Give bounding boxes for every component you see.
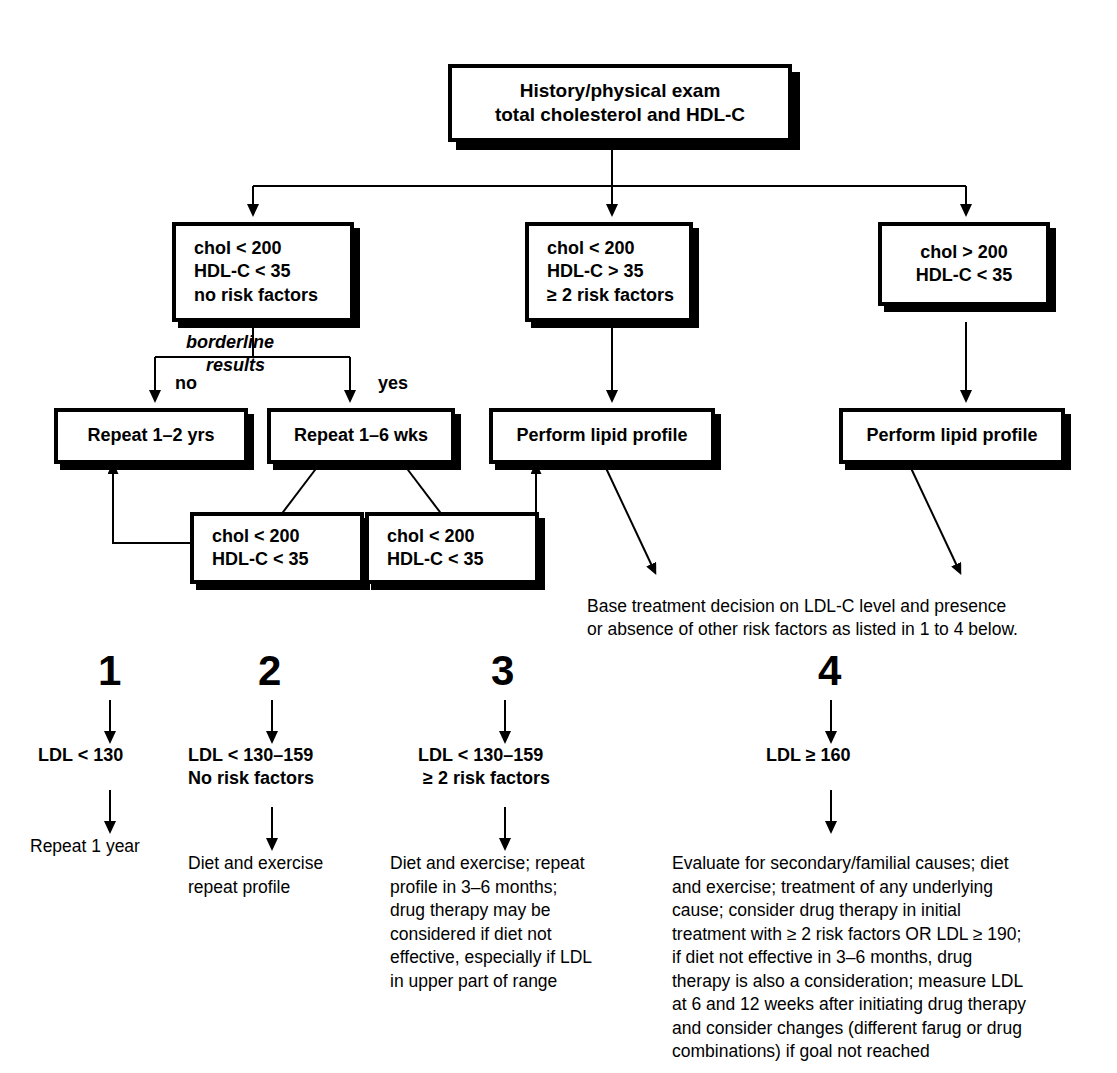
node-line: HDL-C < 35 [212, 548, 309, 571]
node-line: History/physical exam [520, 79, 721, 103]
outcome-action-2: Diet and exercise repeat profile [188, 852, 378, 899]
node-line: chol < 200 [194, 237, 282, 260]
edge-label-no: no [175, 372, 197, 395]
outcome-criteria-2b: No risk factors [188, 767, 314, 790]
node-repeat-1-6-weeks: Repeat 1–6 wks [267, 408, 455, 464]
node-line: chol < 200 [387, 525, 475, 548]
treatment-note-line1: Base treatment decision on LDL-C level a… [587, 595, 1006, 618]
node-line: ≥ 2 risk factors [547, 284, 674, 307]
node-line: HDL-C < 35 [194, 260, 291, 283]
node-line: Perform lipid profile [516, 424, 687, 447]
node-line: Perform lipid profile [866, 424, 1037, 447]
node-line: chol < 200 [547, 237, 635, 260]
node-branch-right: chol > 200 HDL-C < 35 [878, 222, 1050, 306]
node-recheck-left: chol < 200 HDL-C < 35 [190, 512, 364, 584]
node-branch-middle: chol < 200 HDL-C > 35 ≥ 2 risk factors [525, 222, 693, 322]
node-line: Repeat 1–2 yrs [87, 424, 214, 447]
edge-label-yes: yes [378, 372, 408, 395]
outcome-number-1: 1 [98, 650, 121, 692]
node-line: chol > 200 [920, 241, 1008, 264]
node-line: no risk factors [194, 284, 318, 307]
outcome-action-4: Evaluate for secondary/familial causes; … [672, 852, 1102, 1064]
outcome-criteria-1: LDL < 130 [38, 744, 123, 767]
node-line: Repeat 1–6 wks [294, 424, 428, 447]
node-line: HDL-C < 35 [387, 548, 484, 571]
node-perform-lipid-profile-right: Perform lipid profile [839, 408, 1065, 464]
outcome-number-2: 2 [258, 650, 281, 692]
outcome-number-4: 4 [818, 650, 841, 692]
node-line: HDL-C > 35 [547, 260, 644, 283]
node-branch-left: chol < 200 HDL-C < 35 no risk factors [172, 222, 354, 322]
treatment-note-line2: or absence of other risk factors as list… [587, 618, 1018, 641]
node-perform-lipid-profile-middle: Perform lipid profile [489, 408, 715, 464]
node-history-physical-exam: History/physical exam total cholesterol … [448, 64, 792, 142]
flowchart-page: History/physical exam total cholesterol … [0, 0, 1117, 1073]
outcome-criteria-3b: ≥ 2 risk factors [423, 767, 550, 790]
node-recheck-right: chol < 200 HDL-C < 35 [365, 512, 539, 584]
outcome-criteria-2: LDL < 130–159 [188, 744, 313, 767]
outcome-action-3: Diet and exercise; repeat profile in 3–6… [390, 852, 640, 993]
outcome-number-3: 3 [491, 650, 514, 692]
outcome-criteria-3: LDL < 130–159 [418, 744, 543, 767]
node-repeat-1-2-years: Repeat 1–2 yrs [54, 408, 248, 464]
outcome-criteria-4: LDL ≥ 160 [766, 744, 851, 767]
node-line: HDL-C < 35 [916, 264, 1013, 287]
outcome-action-1: Repeat 1 year [30, 835, 180, 859]
node-line: total cholesterol and HDL-C [495, 103, 745, 127]
edge-label-borderline-line2: results [206, 354, 265, 377]
node-line: chol < 200 [212, 525, 300, 548]
edge-label-borderline-line1: borderline [186, 331, 274, 354]
